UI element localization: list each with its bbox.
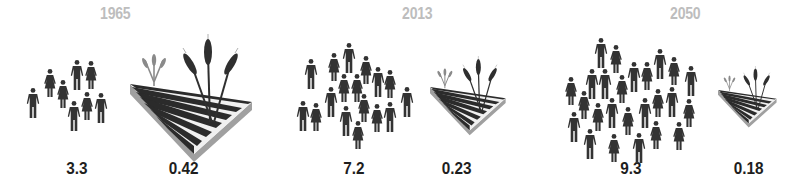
person-icon (325, 87, 337, 117)
person-icon (584, 129, 596, 159)
person-icon (81, 92, 93, 120)
person-icon (384, 102, 396, 132)
people-group-2013 (297, 43, 413, 149)
person-icon (85, 61, 97, 89)
person-icon (592, 103, 604, 131)
person-icon (565, 77, 577, 105)
person-icon (608, 134, 620, 162)
person-icon (633, 133, 645, 163)
person-icon (372, 67, 384, 97)
person-icon (305, 59, 317, 89)
person-icon (673, 122, 685, 150)
person-icon (57, 80, 69, 108)
person-icon (351, 74, 363, 102)
person-icon (371, 104, 383, 132)
person-icon (654, 49, 666, 79)
wheat-field-icon-2050 (718, 66, 777, 127)
person-icon (610, 45, 622, 73)
person-icon (71, 60, 83, 90)
person-icon (328, 53, 340, 81)
person-icon (666, 87, 678, 117)
people-group-2050 (565, 38, 697, 163)
people-group-1965 (27, 60, 107, 131)
person-icon (650, 121, 662, 149)
person-icon (352, 121, 364, 149)
person-icon (95, 93, 107, 123)
person-icon (639, 98, 651, 128)
person-icon (27, 88, 39, 118)
person-icon (668, 57, 680, 85)
person-icon (641, 62, 653, 90)
person-icon (44, 69, 56, 97)
person-icon (622, 107, 634, 135)
person-icon (578, 91, 590, 119)
person-icon (652, 89, 664, 117)
infographic-graphics (0, 0, 797, 192)
person-icon (628, 62, 640, 92)
person-icon (358, 94, 370, 122)
person-icon (343, 43, 355, 73)
person-icon (310, 103, 322, 131)
person-icon (340, 106, 352, 136)
person-icon (685, 66, 697, 96)
person-icon (384, 70, 396, 98)
person-icon (616, 75, 628, 103)
person-icon (401, 87, 413, 117)
person-icon (595, 38, 607, 68)
person-icon (599, 69, 611, 99)
person-icon (68, 101, 80, 131)
person-icon (338, 74, 350, 102)
person-icon (683, 99, 695, 127)
wheat-field-icon-1965 (130, 34, 252, 162)
person-icon (360, 56, 372, 84)
person-icon (568, 112, 580, 142)
person-icon (606, 98, 618, 128)
person-icon (586, 69, 598, 99)
wheat-field-icon-2013 (430, 56, 506, 135)
person-icon (297, 101, 309, 131)
